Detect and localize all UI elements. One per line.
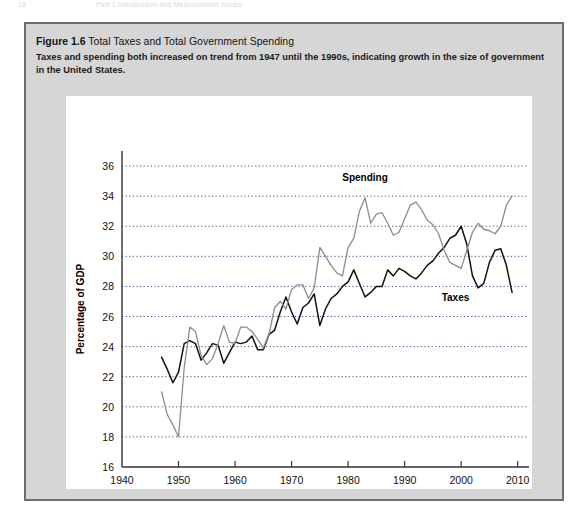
figure-caption-block: Figure 1.6 Total Taxes and Total Governm… (36, 34, 552, 76)
figure-caption-text: Taxes and spending both increased on tre… (36, 51, 552, 76)
figure-title: Figure 1.6 Total Taxes and Total Governm… (36, 34, 552, 48)
running-head-text: Part 1 Introduction and Measurement Issu… (96, 1, 242, 8)
figure-title-text: Total Taxes and Total Government Spendin… (88, 35, 294, 47)
y-tick-label: 26 (102, 311, 114, 323)
y-tick-label: 22 (102, 371, 114, 383)
plot-area-card: 1618202224262830323436 19401950196019701… (66, 96, 532, 489)
x-tick-label: 2010 (506, 474, 530, 486)
y-tick-label: 32 (102, 220, 114, 232)
page-running-head: 18 Part 1 Introduction and Measurement I… (0, 0, 588, 14)
x-tick-label: 1960 (223, 474, 247, 486)
y-tick-label: 16 (102, 461, 114, 473)
y-tick-label: 24 (102, 341, 114, 353)
y-tick-label: 34 (102, 190, 114, 202)
figure-box: Figure 1.6 Total Taxes and Total Governm… (24, 22, 564, 501)
y-tick-label: 28 (102, 280, 114, 292)
page-number: 18 (18, 1, 26, 8)
y-tick-label: 20 (102, 401, 114, 413)
y-tick-label: 36 (102, 160, 114, 172)
series-annotation-spending: Spending (342, 172, 388, 183)
series-group (162, 196, 512, 437)
series-line-spending (162, 196, 512, 437)
series-annotation-taxes: Taxes (442, 292, 470, 303)
x-tick-group: 19401950196019701980199020002010 (110, 461, 529, 486)
y-tick-label: 30 (102, 250, 114, 262)
y-axis-title: Percentage of GDP (75, 263, 86, 354)
x-tick-label: 2000 (449, 474, 473, 486)
x-tick-label: 1980 (336, 474, 360, 486)
x-tick-label: 1950 (167, 474, 191, 486)
y-tick-label: 18 (102, 431, 114, 443)
figure-number: Figure 1.6 (36, 35, 86, 47)
series-line-taxes (162, 226, 512, 382)
x-tick-label: 1940 (110, 474, 134, 486)
x-tick-label: 1970 (280, 474, 304, 486)
line-chart: 1618202224262830323436 19401950196019701… (66, 96, 532, 489)
y-tick-group: 1618202224262830323436 (102, 160, 114, 473)
x-tick-label: 1990 (393, 474, 417, 486)
